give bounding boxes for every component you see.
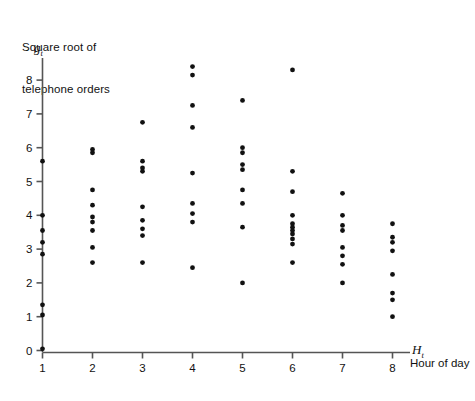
data-point (340, 228, 345, 233)
data-point (290, 169, 295, 174)
data-point (290, 260, 295, 265)
data-point (40, 252, 45, 257)
data-point (190, 220, 195, 225)
data-point (290, 213, 295, 218)
data-point (40, 240, 45, 245)
data-point (240, 167, 245, 172)
data-point (90, 188, 95, 193)
data-point (390, 240, 395, 245)
data-point (140, 159, 145, 164)
data-point (340, 245, 345, 250)
x-tick-label: 3 (139, 362, 145, 374)
data-point (90, 245, 95, 250)
y-tick-label: 1 (26, 311, 32, 323)
data-point (40, 346, 45, 351)
y-tick-label: 8 (26, 74, 32, 86)
data-point (390, 248, 395, 253)
x-tick-label: 2 (89, 362, 95, 374)
plot-canvas: 012345678 12345678 (0, 0, 475, 401)
data-point (340, 223, 345, 228)
data-point (390, 314, 395, 319)
data-point (140, 218, 145, 223)
data-point (240, 281, 245, 286)
data-point (390, 272, 395, 277)
data-point (140, 169, 145, 174)
data-point (290, 68, 295, 73)
data-point (340, 213, 345, 218)
data-point (140, 233, 145, 238)
x-tick-label: 1 (39, 362, 45, 374)
x-tick-label: 5 (239, 362, 245, 374)
data-point (190, 171, 195, 176)
data-point (40, 213, 45, 218)
scatter-plot-figure: Square root of telephone orders gt Ht Ho… (0, 0, 475, 401)
data-point (290, 231, 295, 236)
data-point (40, 159, 45, 164)
y-axis-ticks: 012345678 (26, 74, 42, 356)
data-point (390, 221, 395, 226)
x-axis-group: 12345678 (39, 353, 410, 375)
y-tick-label: 3 (26, 243, 32, 255)
x-tick-label: 4 (189, 362, 196, 374)
data-point (240, 201, 245, 206)
data-point (290, 237, 295, 242)
data-point (240, 188, 245, 193)
data-point (190, 73, 195, 78)
data-point (40, 302, 45, 307)
data-point (190, 201, 195, 206)
data-point (240, 145, 245, 150)
data-point (340, 191, 345, 196)
data-point (190, 125, 195, 130)
data-point (40, 228, 45, 233)
data-point (90, 228, 95, 233)
x-tick-label: 7 (339, 362, 345, 374)
y-tick-label: 5 (26, 176, 32, 188)
data-point (390, 297, 395, 302)
data-point (90, 215, 95, 220)
data-point (290, 242, 295, 247)
data-point (340, 262, 345, 267)
x-tick-label: 6 (289, 362, 295, 374)
data-point (90, 260, 95, 265)
data-points-layer (40, 64, 395, 351)
x-tick-label: 8 (389, 362, 395, 374)
data-point (340, 253, 345, 258)
y-tick-label: 4 (26, 209, 33, 221)
data-point (190, 64, 195, 69)
y-axis-group: 012345678 (26, 58, 42, 357)
data-point (240, 225, 245, 230)
data-point (340, 281, 345, 286)
x-axis-ticks: 12345678 (39, 353, 395, 375)
data-point (390, 235, 395, 240)
data-point (90, 220, 95, 225)
data-point (390, 291, 395, 296)
data-point (190, 103, 195, 108)
data-point (240, 150, 245, 155)
data-point (290, 189, 295, 194)
y-tick-label: 2 (26, 277, 32, 289)
y-tick-label: 7 (26, 108, 32, 120)
data-point (40, 313, 45, 318)
data-point (140, 260, 145, 265)
data-point (240, 162, 245, 167)
data-point (90, 203, 95, 208)
data-point (190, 265, 195, 270)
data-point (140, 226, 145, 231)
data-point (90, 150, 95, 155)
data-point (140, 204, 145, 209)
data-point (140, 120, 145, 125)
data-point (190, 211, 195, 216)
y-tick-label: 6 (26, 142, 32, 154)
y-tick-label: 0 (26, 345, 32, 357)
data-point (240, 98, 245, 103)
